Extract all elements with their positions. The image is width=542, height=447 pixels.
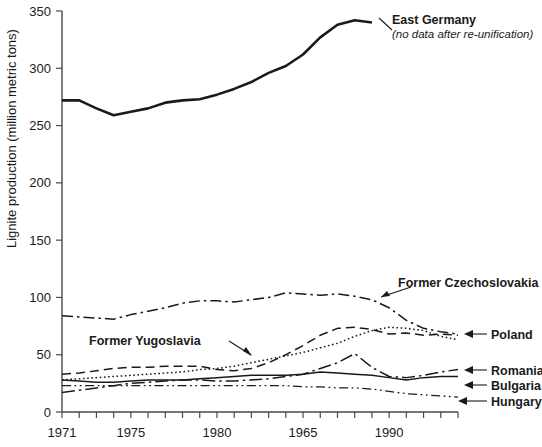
label-hungary: Hungary (491, 395, 542, 409)
series-line-romania (62, 354, 458, 393)
x-tick-label: 1975 (116, 425, 145, 440)
series-line-bulgaria (62, 372, 458, 382)
y-axis-tick-labels: 050100150200250300350 (29, 4, 51, 420)
y-tick-label: 250 (29, 118, 51, 133)
x-tick-label: 1980 (202, 425, 231, 440)
chart-canvas: 050100150200250300350 197119751980196519… (0, 0, 542, 447)
x-axis-ticks (62, 412, 458, 418)
label-romania: Romania (491, 364, 542, 378)
y-tick-label: 350 (29, 4, 51, 19)
label-former-czechoslovakia: Former Czechoslovakia (398, 276, 539, 290)
x-axis-tick-labels: 19711975198019651990 (48, 425, 404, 440)
series-line-former-czechoslovakia (62, 293, 458, 334)
lignite-production-chart: 050100150200250300350 197119751980196519… (0, 0, 542, 447)
right-callout-arrows (458, 330, 487, 405)
y-tick-label: 0 (44, 405, 51, 420)
y-tick-label: 150 (29, 233, 51, 248)
x-tick-label: 1971 (48, 425, 77, 440)
label-east-germany: East Germany (392, 13, 476, 27)
y-axis-ticks (56, 11, 62, 412)
y-tick-label: 100 (29, 290, 51, 305)
y-tick-label: 200 (29, 175, 51, 190)
east-germany-leader (379, 18, 392, 30)
label-poland: Poland (491, 328, 533, 342)
x-tick-label: 1965 (289, 425, 318, 440)
yugoslavia-arrowhead (243, 347, 252, 356)
czechoslovakia-arrowhead (381, 291, 390, 297)
y-axis-title: Lignite production (million metric tons) (4, 29, 19, 248)
x-tick-label: 1990 (375, 425, 404, 440)
label-bulgaria: Bulgaria (491, 379, 542, 393)
y-tick-label: 50 (37, 347, 51, 362)
label-former-yugoslavia: Former Yugoslavia (89, 334, 202, 348)
label-east-germany-note: (no data after re-unification) (392, 28, 533, 40)
y-tick-label: 300 (29, 61, 51, 76)
series-line-east-germany (62, 20, 372, 115)
series-line-hungary (62, 386, 458, 397)
